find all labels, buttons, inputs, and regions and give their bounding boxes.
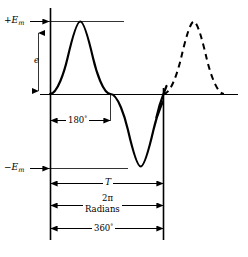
radians-word-value: Radians bbox=[85, 204, 120, 214]
degrees-label: 360° bbox=[92, 223, 115, 232]
trough-amplitude-text: −E bbox=[4, 162, 18, 172]
sine-curve-solid-overshoot bbox=[156, 86, 166, 117]
half-cycle-degree-sign: ° bbox=[84, 114, 87, 121]
half-cycle-label: 180° bbox=[66, 115, 89, 124]
instantaneous-value-label: e bbox=[34, 56, 39, 65]
peak-amplitude-label: +Em bbox=[4, 16, 24, 26]
degrees-degree-sign: ° bbox=[110, 222, 113, 229]
sine-curve-dashed bbox=[164, 22, 225, 95]
radians-symbol-value: 2π bbox=[102, 193, 113, 203]
period-label: T bbox=[103, 178, 113, 187]
instantaneous-value-text: e bbox=[34, 55, 39, 65]
peak-amplitude-text: +E bbox=[4, 15, 18, 25]
radians-symbol-label: 2π bbox=[100, 194, 115, 203]
trough-amplitude-subscript: m bbox=[18, 166, 24, 174]
peak-amplitude-subscript: m bbox=[18, 19, 24, 27]
sine-wave-figure: +Em −Em e 180° T 2π Radians 360° bbox=[0, 0, 248, 257]
trough-amplitude-label: −Em bbox=[4, 163, 24, 173]
radians-word-label: Radians bbox=[83, 205, 122, 214]
period-value: T bbox=[105, 177, 111, 187]
half-cycle-value: 180 bbox=[68, 115, 84, 125]
degrees-value: 360 bbox=[94, 223, 110, 233]
waveform-canvas bbox=[0, 0, 248, 257]
